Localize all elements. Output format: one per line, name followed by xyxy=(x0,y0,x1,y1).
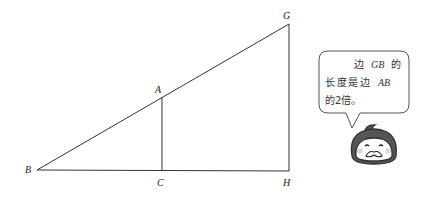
vertex-label-G: G xyxy=(283,10,290,21)
speech-bubble: 边 GB 的 长度是边 AB 的2倍。 xyxy=(319,51,409,128)
vertex-label-H: H xyxy=(282,177,291,188)
penguin-mascot-icon xyxy=(351,125,396,164)
vertex-label-C: C xyxy=(157,177,164,188)
segment-BG xyxy=(37,24,289,170)
triangle-lines xyxy=(37,24,289,171)
segment-BH xyxy=(37,170,289,171)
geometry-figure: B C A G H 边 GB 的 长度是边 AB 的2倍。 xyxy=(0,0,435,199)
vertex-label-B: B xyxy=(25,164,31,175)
bubble-line-3: 的2倍。 xyxy=(325,94,361,106)
vertex-label-A: A xyxy=(154,84,162,95)
